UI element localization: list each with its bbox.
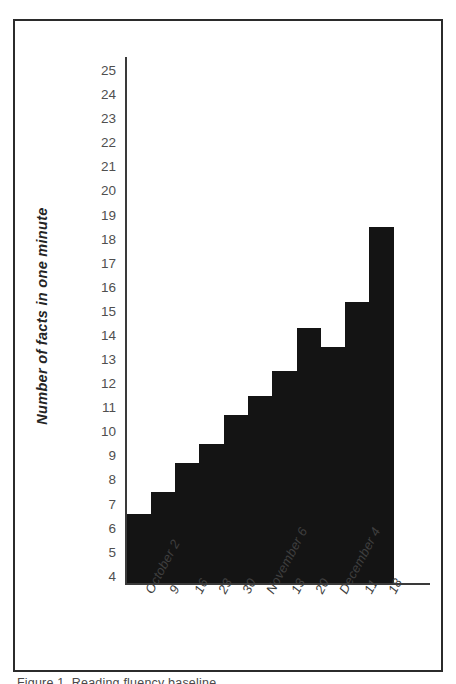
y-axis-tick-label: 7 [86, 498, 116, 512]
y-axis-tick-label: 16 [86, 281, 116, 295]
bar [175, 463, 200, 583]
y-axis-tick-label: 15 [86, 305, 116, 319]
y-axis-tick-label: 13 [86, 353, 116, 367]
y-axis-tick-label: 10 [86, 426, 116, 440]
y-axis-tick-label: 8 [86, 474, 116, 488]
y-axis-tick-label: 14 [86, 329, 116, 343]
figure-page: Number of facts in one minute 2524232221… [0, 0, 456, 684]
x-axis-ticks: October 29162330November 61320December 4… [125, 587, 430, 684]
y-axis-tick-label: 9 [86, 450, 116, 464]
y-axis-tick-label: 22 [86, 137, 116, 151]
y-axis-line [125, 57, 127, 584]
y-axis-tick-label: 12 [86, 377, 116, 391]
y-axis-tick-label: 4 [86, 570, 116, 584]
y-axis-title: Number of facts in one minute [29, 191, 55, 441]
bar [127, 514, 152, 584]
y-axis-tick-label: 21 [86, 161, 116, 175]
plot-area: 25242322212019181716151413121110987654 [125, 57, 430, 585]
y-axis-tick-label: 6 [86, 522, 116, 536]
figure-frame: Number of facts in one minute 2524232221… [13, 19, 443, 672]
bar [248, 396, 273, 584]
figure-caption: Figure 1. Reading fluency baseline [17, 676, 437, 684]
y-axis-tick-label: 18 [86, 233, 116, 247]
y-axis-tick-label: 25 [86, 64, 116, 78]
y-axis-tick-label: 24 [86, 88, 116, 102]
y-axis-tick-label: 11 [86, 401, 116, 415]
y-axis-tick-label: 5 [86, 546, 116, 560]
y-axis-tick-label: 23 [86, 112, 116, 126]
bar [224, 415, 249, 584]
y-axis-tick-label: 19 [86, 209, 116, 223]
y-axis-title-label: Number of facts in one minute [34, 207, 50, 424]
y-axis-tick-label: 17 [86, 257, 116, 271]
y-axis-tick-label: 20 [86, 185, 116, 199]
bar [321, 347, 346, 583]
bar [199, 444, 224, 584]
